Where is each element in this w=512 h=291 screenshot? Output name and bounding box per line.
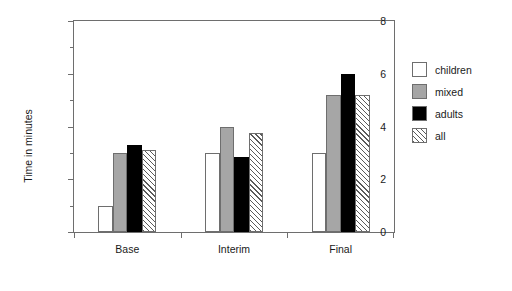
- y-axis-minor-tick: [70, 206, 74, 207]
- legend-item-children[interactable]: children: [412, 62, 472, 77]
- legend-label-children: children: [435, 64, 472, 76]
- legend: childrenmixedadultsall: [412, 62, 472, 143]
- legend-label-adults: adults: [435, 108, 463, 120]
- legend-item-mixed[interactable]: mixed: [412, 84, 472, 99]
- legend-item-all[interactable]: all: [412, 128, 472, 143]
- y-axis-tick: [68, 127, 74, 128]
- bar-chart-figure: Time in minutes 02468BaseInterimFinal ch…: [0, 0, 512, 291]
- y-axis-minor-tick: [70, 47, 74, 48]
- x-axis-label-final: Final: [329, 243, 352, 255]
- bar-interim-children: [205, 153, 220, 232]
- legend-swatch-all: [412, 128, 427, 143]
- y-axis-minor-tick: [70, 153, 74, 154]
- x-axis-tick: [74, 232, 75, 238]
- y-axis-tick-label: 0: [380, 226, 386, 238]
- bar-final-children: [312, 153, 327, 232]
- y-axis-tick: [68, 179, 74, 180]
- plot-area: 02468BaseInterimFinal: [73, 20, 395, 233]
- x-axis-tick: [181, 232, 182, 238]
- y-axis-tick-label: 4: [380, 121, 386, 133]
- y-axis-tick: [68, 74, 74, 75]
- y-axis-tick-label: 2: [380, 173, 386, 185]
- bar-base-mixed: [113, 153, 128, 232]
- bar-base-all: [142, 150, 157, 232]
- legend-item-adults[interactable]: adults: [412, 106, 472, 121]
- legend-swatch-children: [412, 62, 427, 77]
- y-axis-minor-tick: [70, 100, 74, 101]
- legend-label-mixed: mixed: [435, 86, 463, 98]
- x-axis-tick: [287, 232, 288, 238]
- legend-label-all: all: [435, 130, 446, 142]
- y-axis-tick: [68, 21, 74, 22]
- legend-swatch-adults: [412, 106, 427, 121]
- y-axis-tick-label: 8: [380, 15, 386, 27]
- bar-interim-all: [249, 133, 264, 232]
- y-axis-title: Time in minutes: [22, 66, 34, 226]
- x-axis-label-base: Base: [115, 243, 139, 255]
- bar-base-children: [98, 206, 113, 232]
- y-axis-tick-label: 6: [380, 68, 386, 80]
- bar-interim-adults: [234, 157, 249, 232]
- x-axis-label-interim: Interim: [218, 243, 250, 255]
- legend-swatch-mixed: [412, 84, 427, 99]
- bar-base-adults: [127, 145, 142, 232]
- bar-interim-mixed: [220, 127, 235, 233]
- bar-final-mixed: [326, 95, 341, 232]
- x-axis-tick: [393, 232, 394, 238]
- bar-final-adults: [341, 74, 356, 232]
- bar-final-all: [355, 95, 370, 232]
